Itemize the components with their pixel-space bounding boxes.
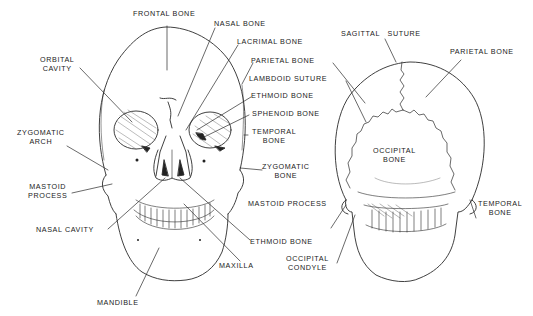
label-zygomatic-arch: ZYGOMATIC ARCH [17, 129, 65, 146]
label-maxilla: MAXILLA [219, 262, 254, 271]
label-temporal-bone-front-line2: BONE [252, 137, 296, 146]
sagittal-suture [400, 62, 404, 110]
label-frontal-bone: FRONTAL BONE [133, 10, 195, 19]
label-orbital-cavity-line2: CAVITY [40, 65, 74, 74]
label-zygomatic-bone: ZYGOMATIC BONE [262, 163, 310, 180]
label-mastoid-process-front-line2: PROCESS [28, 192, 67, 201]
label-temporal-bone-back: TEMPORAL BONE [478, 200, 522, 217]
label-temporal-bone-back-line2: BONE [478, 209, 522, 218]
label-nasal-bone: NASAL BONE [214, 20, 266, 29]
label-mandible: MANDIBLE [97, 299, 139, 308]
label-occipital-condyle: OCCIPITAL CONDYLE [286, 255, 329, 272]
label-nasal-cavity: NASAL CAVITY [36, 226, 94, 235]
label-occipital-bone: OCCIPITAL BONE [373, 147, 416, 164]
posterior-skull [335, 62, 484, 282]
label-zygomatic-bone-line2: BONE [262, 172, 310, 181]
label-parietal-bone-back: PARIETAL BONE [450, 48, 514, 57]
label-ethmoid-bone-lower: ETHMOID BONE [250, 238, 313, 247]
label-temporal-bone-front: TEMPORAL BONE [252, 128, 296, 145]
label-mastoid-process-back: MASTOID PROCESS [248, 200, 327, 209]
mandible-outline [116, 214, 228, 281]
label-ethmoid-bone-upper: ETHMOID BONE [251, 92, 314, 101]
label-sphenoid-bone: SPHENOID BONE [252, 110, 320, 119]
label-sagittal-suture: SAGITTAL SUTURE [341, 30, 421, 39]
label-orbital-cavity: ORBITAL CAVITY [40, 56, 74, 73]
label-lambdoid-suture: LAMBDOID SUTURE [249, 75, 327, 84]
label-occipital-bone-line2: BONE [373, 156, 416, 165]
anterior-teeth [134, 200, 214, 230]
label-parietal-bone-front: PARIETAL BONE [251, 57, 315, 66]
posterior-cranium-outline [335, 62, 484, 200]
label-occipital-condyle-line2: CONDYLE [286, 264, 329, 273]
right-orbit [189, 112, 231, 148]
label-mastoid-process-front: MASTOID PROCESS [28, 183, 67, 200]
label-zygomatic-arch-line2: ARCH [17, 138, 65, 147]
anterior-skull [99, 27, 245, 281]
label-lacrimal-bone: LACRIMAL BONE [237, 38, 303, 47]
